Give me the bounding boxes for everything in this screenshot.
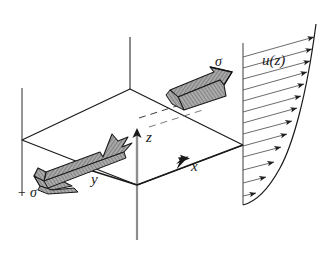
profile-arrow [243, 108, 297, 123]
label-axis-y: y [91, 172, 98, 187]
profile-arrow [243, 72, 307, 90]
label-axis-x: x [191, 159, 198, 174]
shear-flow-figure: σ − σ x y z u(z) [0, 0, 322, 253]
profile-arrow [243, 193, 256, 196]
profile-arrow [243, 121, 292, 134]
profile-arrow [243, 177, 266, 183]
profile-arrow [243, 84, 304, 101]
shear-arrow-positive [166, 67, 232, 110]
profile-arrow [243, 147, 281, 157]
label-axis-z: z [146, 130, 152, 145]
diagram-canvas [0, 0, 322, 253]
profile-arrow [243, 162, 274, 170]
label-sigma-positive: σ [215, 55, 222, 69]
profile-arrow [243, 134, 287, 146]
label-sigma-negative: − σ [17, 186, 37, 200]
label-velocity-profile: u(z) [262, 53, 285, 68]
